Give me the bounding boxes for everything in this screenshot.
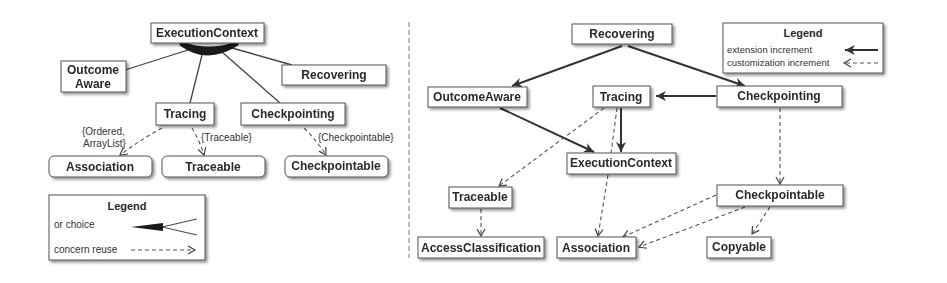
edge-label-checkpointable: {Checkpointable} [318,132,394,143]
node-label: ExecutionContext [570,156,672,170]
edge-label-traceable: {Traceable} [201,132,252,143]
left-node-checkpointing[interactable]: Checkpointing [241,103,345,125]
right-node-tracing[interactable]: Tracing [593,86,650,107]
node-label: ExecutionContext [156,26,258,40]
customization-edges [481,108,780,247]
left-diagram: {Ordered, ArrayList} {Traceable} {Checkp… [49,23,394,260]
right-node-checkpointable[interactable]: Checkpointable [717,185,843,206]
node-label: Checkpointing [737,89,820,103]
left-node-execution-context[interactable]: ExecutionContext [151,23,264,43]
right-node-access-classification[interactable]: AccessClassification [418,237,544,258]
legend-title: Legend [783,27,822,39]
right-node-traceable[interactable]: Traceable [449,187,512,208]
edge-label-ordered-2: ArrayList} [83,138,126,149]
node-label: Checkpointing [251,107,334,121]
node-label-1: Outcome [67,63,119,77]
legend-extension-label: extension increment [727,44,812,55]
node-label: Checkpointable [291,159,381,173]
node-label: Recovering [301,68,366,82]
node-label-2: Aware [75,77,111,91]
diagram-canvas: {Ordered, ArrayList} {Traceable} {Checkp… [0,0,947,283]
node-label: OutcomeAware [433,90,521,104]
node-label: Association [66,160,134,174]
node-label: Checkpointable [735,188,825,202]
right-node-copyable[interactable]: Copyable [707,237,771,258]
node-label: Traceable [452,190,508,204]
right-node-checkpointing[interactable]: Checkpointing [717,86,842,107]
left-legend: Legend or choice concern reuse [49,195,205,260]
left-node-checkpointable[interactable]: Checkpointable [285,156,388,177]
left-node-outcome-aware[interactable]: Outcome Aware [61,61,126,92]
legend-title: Legend [107,200,146,212]
node-label: Tracing [600,90,643,104]
legend-concern-reuse-label: concern reuse [54,244,118,255]
or-choice-edges [125,48,292,103]
node-label: Copyable [712,240,766,254]
left-node-recovering[interactable]: Recovering [282,65,386,85]
node-label: Recovering [589,27,654,41]
or-choice-blob [182,44,236,53]
right-node-recovering[interactable]: Recovering [572,24,672,44]
left-node-association[interactable]: Association [49,156,152,177]
left-node-traceable[interactable]: Traceable [162,156,265,177]
legend-or-choice-label: or choice [54,219,95,230]
edge-label-ordered-1: {Ordered, [82,126,125,137]
left-node-tracing[interactable]: Tracing [156,103,214,125]
right-node-association[interactable]: Association [557,237,636,258]
node-label: Association [562,241,630,255]
right-legend: Legend extension increment customization… [723,23,883,73]
legend-customization-label: customization increment [727,57,830,68]
node-label: Traceable [185,160,241,174]
node-label: AccessClassification [421,241,541,255]
right-node-outcome-aware[interactable]: OutcomeAware [428,87,527,107]
node-label: Tracing [164,107,207,121]
right-node-execution-context[interactable]: ExecutionContext [567,153,676,174]
right-diagram: Recovering OutcomeAware Tracing Checkpoi… [418,23,883,258]
